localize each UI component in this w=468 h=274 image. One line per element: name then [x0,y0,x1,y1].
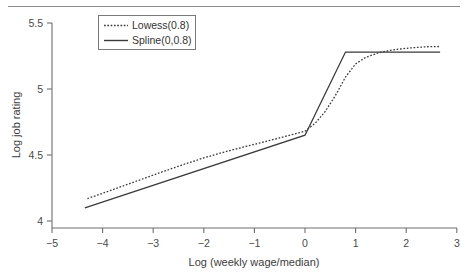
series-line-spline [85,52,440,208]
x-tick-label: −2 [198,237,210,249]
y-ticks-group: 5.5 5 4.5 4 [28,17,52,227]
y-tick-label: 5 [37,83,43,95]
x-tick-label: 1 [353,237,359,249]
series-group [85,47,440,208]
chart-plot: 5.5 5 4.5 4 −5 −4 −3 −2 −1 0 1 2 3 [0,0,468,274]
y-axis-title: Log job rating [10,92,22,159]
legend: Lowess(0.8) Spline(0,0.8) [99,16,196,50]
series-line-lowess [87,47,440,199]
y-tick-label: 4.5 [28,149,43,161]
axes-group [52,23,457,228]
x-tick-label: 3 [454,237,460,249]
legend-label-lowess: Lowess(0.8) [132,19,189,31]
x-tick-label: −4 [97,237,109,249]
y-tick-label: 4 [37,215,43,227]
x-tick-label: 2 [403,237,409,249]
figure-container: 5.5 5 4.5 4 −5 −4 −3 −2 −1 0 1 2 3 [0,0,468,274]
x-tick-label: 0 [302,237,308,249]
x-axis-title: Log (weekly wage/median) [189,256,320,268]
x-tick-label: −1 [248,237,260,249]
x-ticks-group: −5 −4 −3 −2 −1 0 1 2 3 [46,228,460,249]
x-tick-label: −3 [147,237,159,249]
legend-label-spline: Spline(0,0.8) [132,34,192,46]
y-tick-label: 5.5 [28,17,43,29]
x-tick-label: −5 [46,237,58,249]
